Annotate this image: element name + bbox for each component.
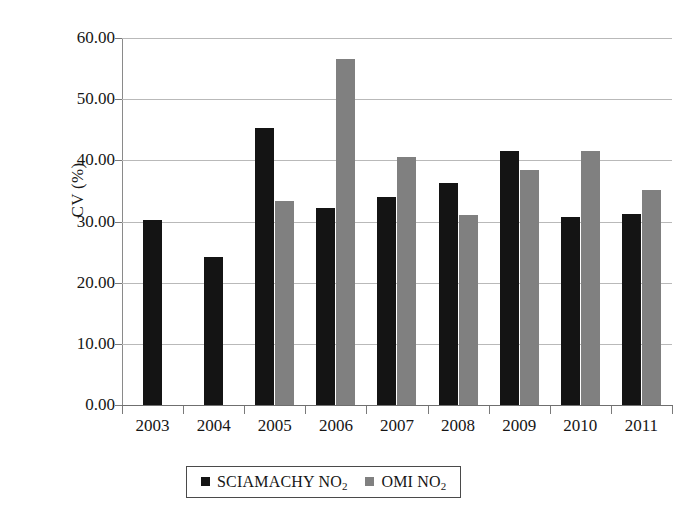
bar-2010-omi [581,151,600,405]
bar-group-2007 [366,38,427,405]
bar-2003-sciamachy [143,220,162,405]
bar-2010-sciamachy [561,217,580,405]
y-tick-label-20: 20.00 [45,273,115,293]
bar-2006-sciamachy [316,208,335,405]
y-tick-mark-30 [115,222,122,223]
bar-2007-omi [397,157,416,405]
bar-group-2004 [183,38,244,405]
x-tick-mark-9 [672,406,673,414]
x-tick-label-2008: 2008 [423,416,493,436]
x-tick-label-2005: 2005 [240,416,310,436]
y-tick-mark-50 [115,99,122,100]
x-tick-mark-0 [122,406,123,414]
x-tick-label-2009: 2009 [484,416,554,436]
bar-2008-sciamachy [439,183,458,405]
legend-label-sciamachy: SCIAMACHY NO [217,473,342,491]
legend-swatch-sciamachy [201,477,210,486]
y-tick-mark-60 [115,38,122,39]
x-axis-line [122,405,673,406]
bar-2006-omi [336,59,355,405]
x-tick-label-2004: 2004 [179,416,249,436]
y-tick-label-40: 40.00 [45,150,115,170]
bar-2009-sciamachy [500,151,519,405]
x-tick-mark-3 [305,406,306,414]
x-tick-label-2003: 2003 [118,416,188,436]
bar-2011-omi [642,190,661,405]
y-tick-mark-10 [115,344,122,345]
bar-2005-sciamachy [255,128,274,405]
bar-series-container [122,38,672,405]
bar-group-2005 [244,38,305,405]
y-tick-label-30: 30.00 [45,212,115,232]
legend-label-subscript-omi: 2 [441,480,447,492]
bar-2005-omi [275,201,294,405]
x-tick-mark-6 [489,406,490,414]
bar-group-2009 [489,38,550,405]
bar-group-2006 [305,38,366,405]
legend-label-subscript-sciamachy: 2 [342,480,348,492]
chart-figure: CV (%) 0.0010.0020.0030.0040.0050.0060.0… [0,0,691,520]
legend-label-omi: OMI NO [381,473,440,491]
bar-2011-sciamachy [622,214,641,405]
y-tick-label-60: 60.00 [45,28,115,48]
x-tick-label-2010: 2010 [545,416,615,436]
y-tick-mark-0 [115,405,122,406]
y-tick-mark-40 [115,160,122,161]
y-axis-tick-labels: 0.0010.0020.0030.0040.0050.0060.00 [40,0,115,520]
bar-2009-omi [520,170,539,405]
y-tick-label-0: 0.00 [45,395,115,415]
x-tick-mark-1 [183,406,184,414]
x-tick-label-2007: 2007 [362,416,432,436]
legend-entry-sciamachy: SCIAMACHY NO2 [201,473,347,491]
y-tick-label-10: 10.00 [45,334,115,354]
bar-group-2010 [550,38,611,405]
bar-group-2003 [122,38,183,405]
bar-2007-sciamachy [377,197,396,405]
x-tick-mark-7 [550,406,551,414]
bar-2004-sciamachy [204,257,223,405]
x-tick-mark-5 [428,406,429,414]
bar-2008-omi [459,215,478,405]
x-tick-mark-4 [366,406,367,414]
x-tick-mark-2 [244,406,245,414]
bar-group-2011 [611,38,672,405]
x-tick-label-2011: 2011 [606,416,676,436]
y-tick-label-50: 50.00 [45,89,115,109]
x-tick-label-2006: 2006 [301,416,371,436]
legend-swatch-omi [365,477,374,486]
chart-legend: SCIAMACHY NO2OMI NO2 [186,466,461,498]
bar-group-2008 [428,38,489,405]
y-tick-mark-20 [115,283,122,284]
x-tick-mark-8 [611,406,612,414]
legend-entry-omi: OMI NO2 [365,473,446,491]
